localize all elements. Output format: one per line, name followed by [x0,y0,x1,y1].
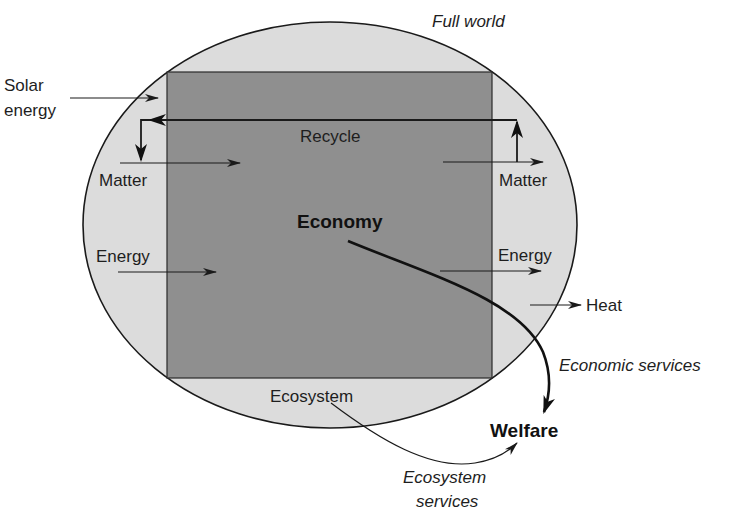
matter-in-label: Matter [99,171,147,191]
economic-services-label: Economic services [559,356,701,376]
welfare-label: Welfare [490,421,558,441]
ecosystem-services-label-line1: Ecosystem [403,468,486,488]
economy-label: Economy [297,212,383,232]
solar-energy-label-line1: Solar [4,76,44,96]
heat-label: Heat [586,296,622,316]
solar-energy-label-line2: energy [4,101,56,121]
matter-out-label: Matter [499,171,547,191]
energy-in-label: Energy [96,247,150,267]
energy-out-label: Energy [498,246,552,266]
recycle-label: Recycle [300,127,360,147]
ecosystem-services-label-line2: services [416,492,478,512]
ecosystem-label: Ecosystem [270,387,353,407]
full-world-label: Full world [432,12,505,32]
